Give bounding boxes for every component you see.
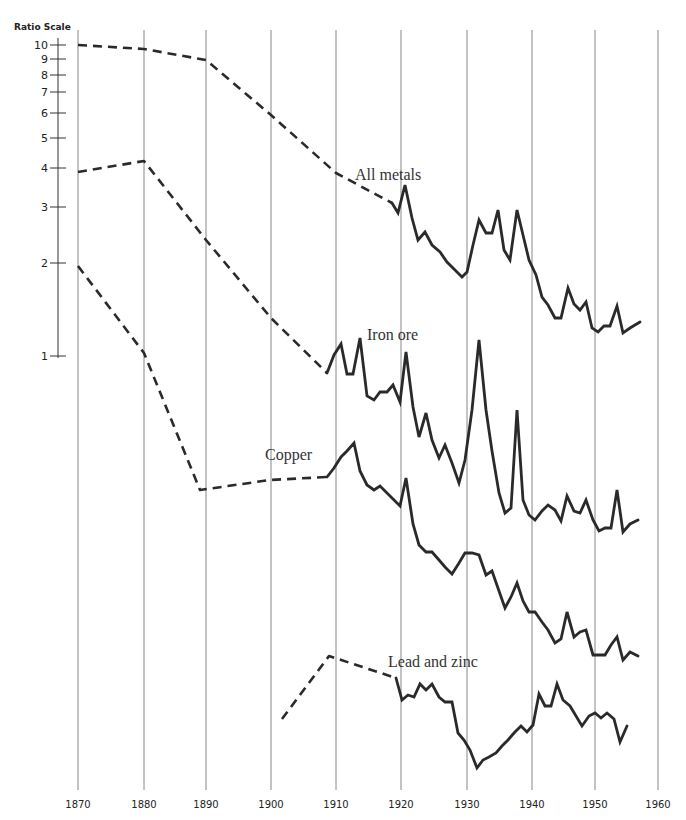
label-copper: Copper [265, 446, 313, 464]
line-chart: Ratio Scale 10987654321 1870188018901900… [0, 0, 686, 820]
label-all-metals: All metals [355, 166, 421, 183]
y-tick-label: 5 [41, 132, 48, 145]
series-dashed-segment [282, 656, 396, 719]
x-tick-label: 1890 [193, 799, 218, 810]
x-tick-label: 1960 [645, 799, 670, 810]
x-tick-label: 1880 [131, 799, 156, 810]
y-tick-label: 6 [41, 107, 48, 120]
series-dashed-segment [78, 45, 392, 203]
series-solid-segment [327, 338, 638, 532]
label-lead-and-zinc: Lead and zinc [388, 653, 478, 670]
y-tick-label: 1 [41, 350, 48, 363]
y-axis-ticks: 10987654321 [34, 39, 66, 363]
series-iron-ore [78, 161, 638, 532]
label-iron-ore: Iron ore [367, 326, 418, 343]
series-dashed-segment [78, 161, 327, 373]
x-tick-label: 1950 [582, 799, 607, 810]
series-solid-segment [392, 185, 640, 333]
series-copper [78, 266, 638, 660]
series-all-metals [78, 45, 640, 333]
vertical-gridlines [78, 30, 658, 790]
y-tick-label: 9 [41, 53, 48, 66]
y-tick-label: 7 [41, 86, 48, 99]
x-tick-label: 1940 [519, 799, 544, 810]
x-tick-label: 1870 [65, 799, 90, 810]
y-axis-title: Ratio Scale [14, 22, 71, 32]
series-lead-and-zinc [282, 656, 627, 768]
y-tick-label: 2 [41, 257, 48, 270]
y-tick-label: 3 [41, 201, 48, 214]
y-tick-label: 10 [34, 39, 48, 52]
x-tick-label: 1930 [454, 799, 479, 810]
series-layer [78, 45, 640, 768]
x-tick-label: 1920 [388, 799, 413, 810]
x-axis-labels: 1870188018901900191019201930194019501960 [65, 799, 670, 810]
x-tick-label: 1910 [323, 799, 348, 810]
y-tick-label: 8 [41, 69, 48, 82]
series-solid-segment [327, 443, 638, 660]
x-tick-label: 1900 [258, 799, 283, 810]
series-solid-segment [396, 678, 627, 768]
y-tick-label: 4 [41, 162, 48, 175]
